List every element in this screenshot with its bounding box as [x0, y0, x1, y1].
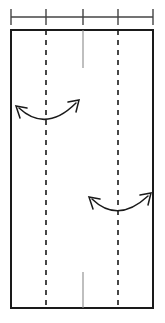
main-rectangle: [11, 30, 153, 308]
scale-bar-group: [11, 9, 153, 25]
diagram-canvas: [0, 0, 165, 323]
diagram-svg: [0, 0, 165, 323]
